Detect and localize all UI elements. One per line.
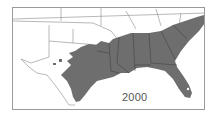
- lake-okeechobee: [187, 88, 189, 90]
- range-map: [13, 8, 205, 110]
- map-frame: [12, 7, 205, 110]
- year-label: 2000: [122, 91, 147, 103]
- range-area: [61, 15, 205, 102]
- range-patch: [59, 59, 62, 62]
- range-patch: [53, 63, 56, 65]
